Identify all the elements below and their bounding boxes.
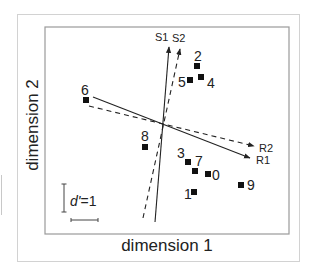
vector-label-r1: R1: [256, 154, 270, 166]
point-label-3: 3: [177, 145, 185, 161]
marker-9: [238, 182, 244, 188]
y-axis-label-box: dimension 2: [22, 70, 44, 180]
marker-4: [198, 74, 204, 80]
marker-3: [185, 159, 191, 165]
marker-1: [191, 189, 197, 195]
data-markers: [83, 63, 244, 195]
point-label-9: 9: [247, 177, 255, 193]
scatter-plot: S1 S2 R2 R1 0 1 2 3 4 5 6 7 8 9: [0, 0, 315, 273]
marker-5: [187, 77, 193, 83]
vector-label-s1: S1: [155, 31, 168, 43]
point-label-7: 7: [195, 153, 203, 169]
point-label-2: 2: [194, 48, 202, 64]
scale-label-value: =1: [80, 193, 96, 209]
point-label-0: 0: [212, 167, 220, 183]
point-label-8: 8: [141, 128, 149, 144]
point-label-6: 6: [81, 82, 89, 98]
vector-r2: [89, 106, 254, 146]
point-label-5: 5: [178, 74, 186, 90]
x-axis-label: dimension 1: [45, 236, 289, 256]
point-label-1: 1: [184, 186, 192, 202]
vector-label-s2: S2: [172, 32, 185, 44]
marker-8: [142, 144, 148, 150]
point-label-4: 4: [207, 75, 215, 91]
scale-label: d'=1: [70, 193, 96, 209]
vector-label-r2: R2: [259, 142, 273, 154]
vector-s1: [155, 47, 169, 222]
scale-label-d: d': [70, 193, 80, 209]
y-axis-label: dimension 2: [23, 79, 43, 171]
vector-r1: [93, 97, 250, 158]
marker-0: [205, 171, 211, 177]
